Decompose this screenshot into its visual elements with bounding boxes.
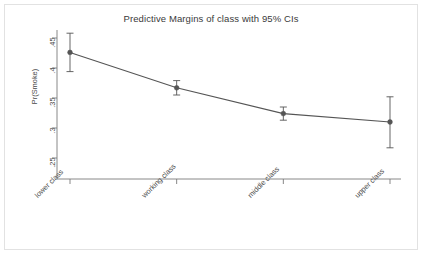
chart-figure: Predictive Margins of class with 95% CIs…: [0, 0, 422, 254]
error-bar-layer: [67, 33, 394, 148]
plot-area: [0, 0, 422, 254]
series-line-layer: [70, 52, 390, 122]
data-point-marker: [174, 85, 179, 90]
y-axis-ticks: [52, 38, 57, 158]
series-polyline: [70, 52, 390, 122]
data-point-marker: [68, 50, 73, 55]
data-point-marker: [388, 120, 393, 125]
data-marker-layer: [68, 50, 393, 124]
x-axis-ticks: [70, 179, 390, 184]
axes: [57, 30, 401, 179]
data-point-marker: [281, 111, 286, 116]
